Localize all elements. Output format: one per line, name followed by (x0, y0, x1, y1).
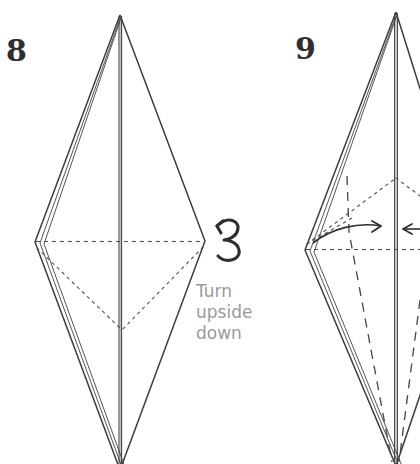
fold-arrow-left (403, 224, 420, 234)
step-9-layer-edges (310, 13, 402, 464)
step-9-hidden-creases (307, 178, 420, 244)
step-9-center-spine (395, 13, 398, 464)
origami-instruction-page: 8 Turn upside down (0, 0, 420, 464)
step-9-figure (0, 0, 420, 464)
step-9-fold-lines (347, 176, 420, 462)
step-9-number: 9 (295, 34, 315, 64)
step-9-outline (305, 12, 420, 464)
